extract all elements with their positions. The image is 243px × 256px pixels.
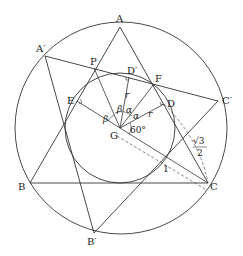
- label-c: C: [210, 181, 218, 192]
- label-two: 2: [197, 148, 203, 158]
- label-d: D: [167, 98, 175, 109]
- label-g: G: [110, 130, 118, 141]
- label-r-right: r: [148, 109, 153, 119]
- label-one: 1: [163, 164, 169, 174]
- segment-g-d-prime: [120, 77, 129, 128]
- angle-arc-beta1: [108, 115, 114, 121]
- label-a: A: [115, 13, 124, 24]
- label-f: F: [155, 73, 162, 84]
- label-alpha-upper: α: [126, 105, 132, 115]
- circumcircle: [15, 22, 227, 234]
- label-beta-left: β: [102, 114, 108, 124]
- label-e: E: [67, 95, 74, 106]
- label-b: B: [18, 181, 25, 192]
- dashed-g-c: [117, 136, 205, 189]
- label-alpha-right: α: [133, 111, 139, 121]
- label-sixty-degrees: 60°: [130, 125, 146, 135]
- label-sqrt3: √3: [193, 136, 205, 146]
- label-b-prime: B′: [87, 236, 97, 247]
- label-beta-upper: β: [116, 104, 122, 114]
- label-p: P: [90, 56, 97, 67]
- label-c-prime: C′: [222, 95, 233, 106]
- segment-g-e: [77, 101, 120, 128]
- geometry-diagram: A B C A′ B′ C′ P D′ F E D G β β α α 60° …: [0, 0, 243, 256]
- label-d-prime: D′: [127, 65, 138, 76]
- right-angle-e: [79, 99, 82, 104]
- label-a-prime: A′: [35, 43, 46, 54]
- diagram-svg: A B C A′ B′ C′ P D′ F E D G β β α α 60° …: [0, 0, 243, 256]
- label-r-vertical: r: [125, 90, 130, 100]
